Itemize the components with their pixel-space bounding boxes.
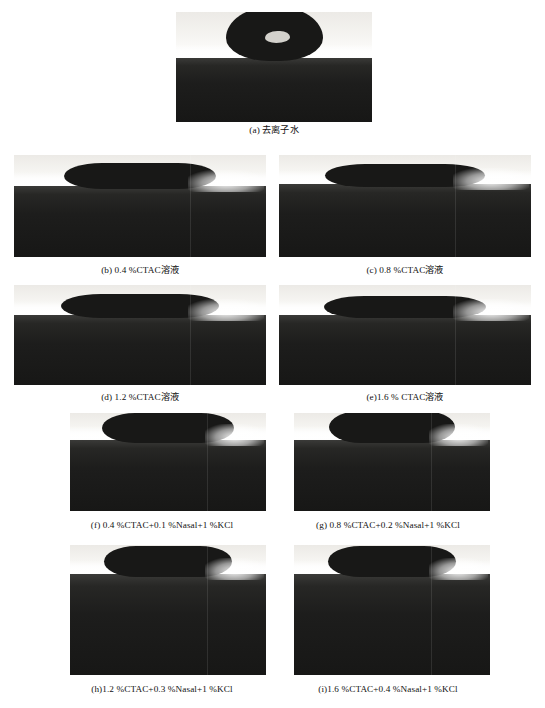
frame-seam-h bbox=[207, 545, 208, 675]
droplet-photo-g bbox=[294, 413, 490, 511]
substrate-d bbox=[14, 315, 266, 385]
contact-angle-figure: (a) 去离子水(b) 0.4 %CTAC溶液(c) 0.8 %CTAC溶液(d… bbox=[0, 0, 545, 708]
droplet-h bbox=[104, 546, 232, 577]
droplet-b bbox=[64, 163, 216, 189]
droplet-photo-i bbox=[294, 545, 490, 675]
frame-seam-c bbox=[455, 155, 456, 257]
droplet-photo-c bbox=[279, 155, 531, 257]
substrate-b bbox=[14, 186, 266, 257]
panel-f bbox=[70, 413, 266, 511]
panel-g bbox=[294, 413, 490, 511]
droplet-d bbox=[61, 294, 219, 318]
droplet-photo-e bbox=[279, 285, 531, 385]
frame-seam-b bbox=[190, 155, 191, 257]
substrate-f bbox=[70, 440, 266, 511]
caption-h: (h)1.2 %CTAC+0.3 %Nasal+1 %KCl bbox=[36, 683, 288, 695]
frame-seam-f bbox=[207, 413, 208, 511]
droplet-photo-b bbox=[14, 155, 266, 257]
panel-h bbox=[70, 545, 266, 675]
caption-c: (c) 0.8 %CTAC溶液 bbox=[279, 264, 531, 276]
caption-i: (i)1.6 %CTAC+0.4 %Nasal+1 %KCl bbox=[262, 683, 514, 695]
caption-b: (b) 0.4 %CTAC溶液 bbox=[14, 264, 266, 276]
frame-seam-i bbox=[431, 545, 432, 675]
panel-e bbox=[279, 285, 531, 385]
caption-d: (d) 1.2 %CTAC溶液 bbox=[14, 391, 266, 403]
frame-seam-g bbox=[431, 413, 432, 511]
droplet-i bbox=[328, 546, 456, 577]
droplet-g bbox=[329, 413, 455, 443]
caption-a: (a) 去离子水 bbox=[176, 124, 372, 136]
substrate-a bbox=[176, 58, 372, 122]
panel-a bbox=[176, 12, 372, 122]
substrate-i bbox=[294, 574, 490, 675]
droplet-photo-a bbox=[176, 12, 372, 122]
droplet-f bbox=[102, 413, 234, 443]
caption-g: (g) 0.8 %CTAC+0.2 %Nasal+1 %KCl bbox=[262, 519, 514, 531]
substrate-h bbox=[70, 574, 266, 675]
substrate-c bbox=[279, 184, 531, 257]
caption-f: (f) 0.4 %CTAC+0.1 %Nasal+1 %KCl bbox=[36, 519, 288, 531]
panel-d bbox=[14, 285, 266, 385]
caption-e: (e)1.6 % CTAC溶液 bbox=[279, 391, 531, 403]
droplet-photo-d bbox=[14, 285, 266, 385]
droplet-highlight-a bbox=[265, 31, 290, 43]
substrate-e bbox=[279, 315, 531, 385]
substrate-g bbox=[294, 440, 490, 511]
panel-c bbox=[279, 155, 531, 257]
panel-i bbox=[294, 545, 490, 675]
droplet-e bbox=[324, 296, 486, 318]
panel-b bbox=[14, 155, 266, 257]
droplet-photo-f bbox=[70, 413, 266, 511]
droplet-a bbox=[226, 12, 323, 61]
frame-seam-e bbox=[455, 285, 456, 385]
droplet-photo-h bbox=[70, 545, 266, 675]
droplet-c bbox=[325, 164, 485, 187]
frame-seam-d bbox=[190, 285, 191, 385]
